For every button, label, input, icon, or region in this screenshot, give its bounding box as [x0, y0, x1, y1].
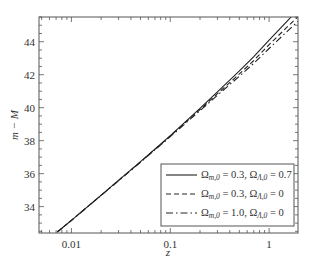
legend: Ωm,0 = 0.3, ΩΛ,0 = 0.7Ωm,0 = 0.3, ΩΛ,0 =… — [161, 164, 294, 226]
x-axis-title: z — [165, 246, 171, 258]
y-axis-tick-labels: 343638404244 — [24, 36, 36, 213]
y-tick-label: 38 — [24, 135, 36, 147]
y-tick-label: 36 — [24, 168, 36, 180]
x-tick-label: 0.01 — [62, 238, 81, 250]
y-tick-label: 40 — [24, 102, 36, 114]
distance-modulus-chart: 0.010.11 343638404244 z m − M Ωm,0 = 0.3… — [0, 0, 313, 273]
y-tick-label: 34 — [24, 201, 36, 213]
y-tick-label: 44 — [24, 36, 36, 48]
y-axis-title: m − M — [8, 109, 20, 140]
x-tick-label: 1 — [266, 238, 272, 250]
y-tick-label: 42 — [24, 69, 35, 81]
